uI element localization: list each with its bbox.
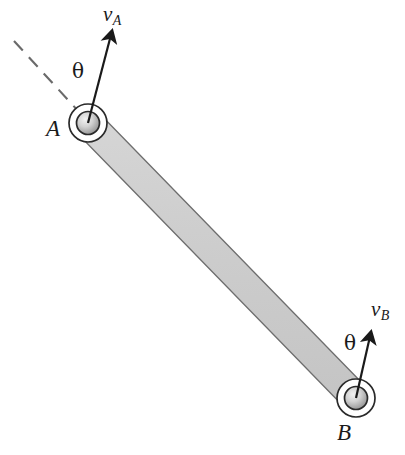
label-velocity-a-subscript: A bbox=[113, 13, 122, 28]
label-theta-b: θ bbox=[344, 331, 356, 355]
label-point-b: B bbox=[337, 420, 351, 446]
label-velocity-b-subscript: B bbox=[381, 308, 390, 323]
bar-linkage-figure bbox=[0, 0, 405, 455]
label-velocity-b: vB bbox=[371, 297, 389, 324]
label-theta-a: θ bbox=[72, 59, 84, 83]
label-point-a: A bbox=[46, 116, 60, 142]
label-velocity-a-symbol: v bbox=[103, 2, 112, 26]
reference-axis-dashed bbox=[14, 41, 80, 113]
physics-diagram: A B vA vB θ θ bbox=[0, 0, 405, 455]
label-velocity-b-symbol: v bbox=[371, 297, 380, 321]
rigid-bar-AB bbox=[77, 113, 366, 408]
label-velocity-a: vA bbox=[103, 2, 121, 29]
